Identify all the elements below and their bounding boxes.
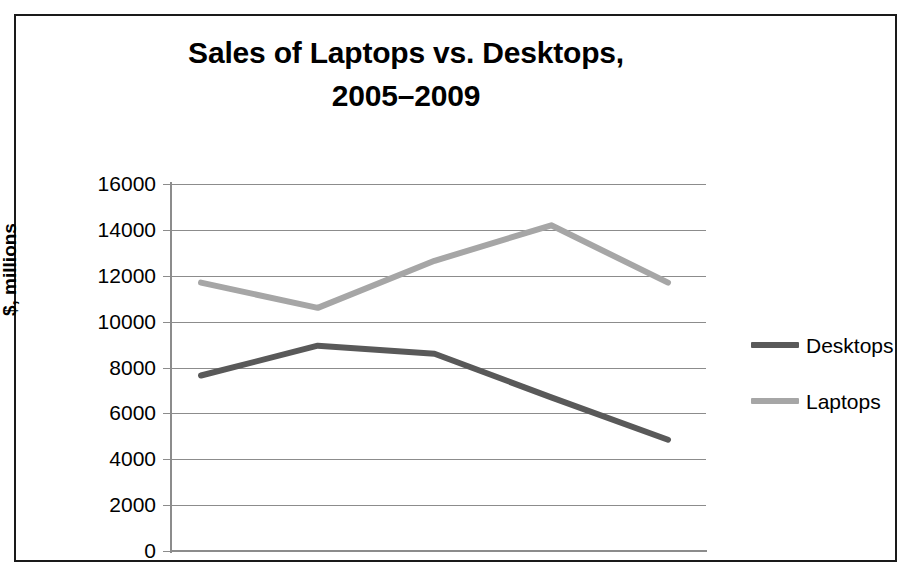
y-axis-tick-label: 2000 [61, 494, 156, 515]
y-axis-tick-label: 16000 [61, 173, 156, 194]
y-axis-tick-mark [163, 551, 171, 552]
y-axis-tick-label: 12000 [61, 265, 156, 286]
y-axis-tick-label: 6000 [61, 402, 156, 423]
y-axis-tick-labels: 1600014000120001000080006000400020000 [56, 16, 156, 574]
y-axis-tick-mark [163, 459, 171, 460]
plot-area [171, 184, 706, 551]
y-axis-tick-mark [163, 368, 171, 369]
y-axis-title: $, millions [0, 223, 21, 316]
y-axis-tick-mark [163, 276, 171, 277]
y-axis-tick-label: 4000 [61, 448, 156, 469]
y-axis-tick-mark [163, 505, 171, 506]
y-axis-tick-mark [163, 322, 171, 323]
legend-label: Laptops [806, 391, 881, 412]
chart-legend: DesktopsLaptops [751, 334, 901, 446]
chart-figure: Sales of Laptops vs. Desktops, 2005–2009… [0, 0, 911, 574]
legend-item-laptops[interactable]: Laptops [751, 390, 901, 412]
series-lines [171, 184, 706, 551]
legend-swatch-icon [751, 398, 799, 404]
series-line-desktops [201, 346, 668, 440]
y-axis-tick-mark [163, 230, 171, 231]
series-line-laptops [201, 225, 668, 308]
y-axis-tick-label: 10000 [61, 311, 156, 332]
legend-swatch-icon [751, 342, 799, 348]
legend-label: Desktops [806, 335, 894, 356]
chart-title-line-2: 2005–2009 [56, 75, 756, 118]
y-axis-tick-label: 14000 [61, 219, 156, 240]
y-axis-tick-label: 0 [61, 540, 156, 561]
legend-item-desktops[interactable]: Desktops [751, 334, 901, 356]
chart-title-line-1: Sales of Laptops vs. Desktops, [56, 32, 756, 75]
y-axis-tick-mark [163, 184, 171, 185]
y-axis-tick-label: 8000 [61, 357, 156, 378]
y-axis-tick-mark [163, 413, 171, 414]
chart-frame: Sales of Laptops vs. Desktops, 2005–2009… [14, 14, 897, 562]
chart-title: Sales of Laptops vs. Desktops, 2005–2009 [56, 32, 756, 117]
